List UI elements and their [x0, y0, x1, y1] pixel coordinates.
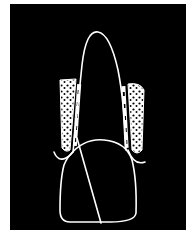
- diagonal-line: [77, 138, 101, 223]
- root-outline: [73, 32, 126, 152]
- gingiva-left: [54, 152, 73, 159]
- tooth-diagram: [0, 0, 189, 238]
- crown-outline: [60, 140, 136, 222]
- alveolar-bone-right: [128, 84, 144, 153]
